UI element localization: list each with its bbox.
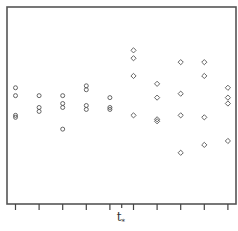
- diamond-marker: [225, 95, 230, 100]
- circle-marker: [61, 127, 65, 131]
- diamond-marker: [178, 150, 183, 155]
- diamond-marker: [225, 138, 230, 143]
- diamond-marker: [202, 115, 207, 120]
- diamond-marker: [202, 73, 207, 78]
- circle-marker: [61, 94, 65, 98]
- t-star-label: t*: [117, 210, 125, 226]
- diamond-marker: [225, 85, 230, 90]
- circle-marker: [37, 94, 41, 98]
- data-points: [14, 48, 231, 156]
- circle-marker: [37, 105, 41, 109]
- diamond-marker: [131, 73, 136, 78]
- diamond-marker: [178, 113, 183, 118]
- diamond-marker: [131, 56, 136, 61]
- circle-marker: [108, 96, 112, 100]
- diamond-marker: [131, 48, 136, 53]
- circle-marker: [61, 102, 65, 106]
- diamond-marker: [155, 81, 160, 86]
- diamond-marker: [178, 91, 183, 96]
- t-star-subscript: *: [122, 218, 126, 226]
- plot-frame: [7, 7, 236, 204]
- circle-marker: [84, 107, 88, 111]
- circle-marker: [84, 84, 88, 88]
- diamond-marker: [131, 113, 136, 118]
- diamond-marker: [225, 101, 230, 106]
- circle-marker: [37, 109, 41, 113]
- diamond-marker: [202, 142, 207, 147]
- circle-marker: [61, 105, 65, 109]
- circle-marker: [14, 94, 18, 98]
- circle-marker: [84, 104, 88, 108]
- diamond-marker: [202, 60, 207, 65]
- diamond-marker: [155, 95, 160, 100]
- circle-marker: [84, 88, 88, 92]
- scatter-plot: [0, 0, 238, 231]
- circle-marker: [14, 86, 18, 90]
- diamond-marker: [178, 60, 183, 65]
